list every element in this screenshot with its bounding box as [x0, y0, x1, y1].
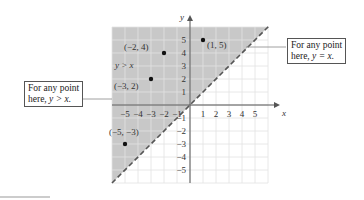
y-axis-label: y [179, 12, 184, 22]
x-axis-label: x [281, 108, 286, 118]
callout-right-line1: For any point [291, 40, 342, 51]
x-tick-label: 3 [227, 109, 232, 119]
y-axis-arrow-icon [187, 15, 193, 21]
y-tick-label: 4 [182, 48, 187, 58]
y-tick-label: 3 [182, 61, 187, 71]
callout-right: For any point here, y = x. [287, 38, 346, 64]
data-point [123, 142, 127, 146]
callout-right-line2: here, y = x. [291, 51, 342, 62]
x-tick-label: −4 [133, 109, 143, 119]
x-tick-label: 2 [214, 109, 219, 119]
data-point [201, 38, 205, 42]
callout-left-line1: For any point [28, 83, 79, 94]
data-point [149, 77, 153, 81]
y-tick-label: −5 [176, 165, 186, 175]
point-label: (−3, 2) [114, 81, 139, 91]
point-label: (−5, −3) [109, 127, 139, 137]
x-tick-label: −3 [146, 109, 156, 119]
y-tick-label: 2 [182, 74, 187, 84]
x-axis-arrow-icon [274, 102, 280, 108]
callout-left: For any point here, y > x. [24, 81, 83, 107]
callout-left-line2: here, y > x. [28, 94, 79, 105]
x-tick-label: 1 [201, 109, 206, 119]
point-label: (1, 5) [207, 40, 227, 50]
y-tick-label: 5 [182, 35, 187, 45]
y-tick-label: −2 [176, 126, 186, 136]
y-tick-label: −1 [176, 113, 186, 123]
x-tick-label: −5 [120, 109, 130, 119]
x-tick-label: 5 [253, 109, 258, 119]
data-point [162, 51, 166, 55]
y-tick-label: 1 [182, 87, 187, 97]
y-tick-label: −3 [176, 139, 186, 149]
x-tick-label: −2 [159, 109, 169, 119]
region-label: y > x [114, 60, 134, 70]
point-label: (−2, 4) [124, 42, 149, 52]
y-tick-label: −4 [176, 152, 186, 162]
x-tick-label: 4 [240, 109, 245, 119]
